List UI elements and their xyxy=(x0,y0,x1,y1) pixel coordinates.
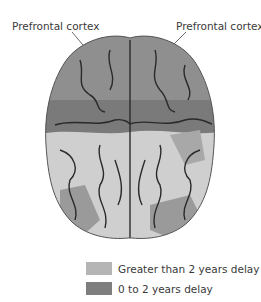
legend-swatch-dark xyxy=(86,282,112,295)
legend-label: Greater than 2 years delay xyxy=(118,263,260,275)
legend-swatch-light xyxy=(86,262,112,275)
legend-label: 0 to 2 years delay xyxy=(118,283,213,295)
legend-item-0-to-2-years: 0 to 2 years delay xyxy=(86,282,213,295)
legend-item-greater-than-2-years: Greater than 2 years delay xyxy=(86,262,260,275)
brain-diagram xyxy=(0,0,261,302)
